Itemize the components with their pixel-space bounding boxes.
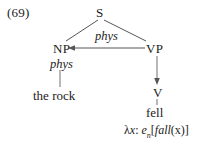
feature-label-arrow: phys — [95, 30, 118, 43]
type-subscript: n — [147, 131, 151, 140]
node-s: S — [96, 6, 104, 19]
example-figure: (69) S NP VP V phys phys the rock fell λ… — [0, 0, 206, 143]
node-vp: VP — [146, 42, 163, 55]
node-np: NP — [53, 42, 70, 55]
feature-label-np: phys — [50, 58, 73, 71]
semantic-denotation: λx: en[fall(x)] — [124, 124, 189, 139]
close-bracket: ] — [185, 123, 189, 137]
terminal-fell: fell — [146, 106, 163, 119]
edge-s-np — [66, 20, 98, 41]
tree-edges — [0, 0, 206, 143]
terminal-the-rock: the rock — [33, 89, 75, 102]
example-number: (69) — [7, 6, 29, 19]
predicate-fall: fall — [155, 123, 171, 137]
node-v: V — [153, 86, 163, 99]
arrowhead-down-icon — [154, 78, 160, 85]
